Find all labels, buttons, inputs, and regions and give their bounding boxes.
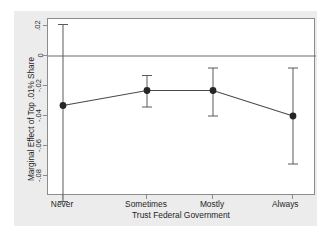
data-point-mostly: [210, 87, 217, 94]
error-bar-never: [58, 25, 68, 202]
x-tick-label-always: Always: [272, 199, 317, 209]
series-line: [63, 91, 293, 117]
x-tick-label-sometimes: Sometimes: [116, 199, 176, 209]
y-tick-label-2: -.02: [34, 73, 43, 99]
chart-svg: [48, 19, 316, 196]
x-axis-title: Trust Federal Government: [47, 210, 315, 220]
plot-frame: [47, 18, 315, 195]
chart-screenshot: Marginal Effect of Top .01% Share .02 0 …: [0, 0, 317, 237]
y-tick-label-0: .02: [33, 15, 42, 37]
data-point-always: [290, 113, 297, 120]
y-tick-label-3: -.04: [34, 103, 43, 129]
y-tick-label-5: -.08: [34, 163, 43, 189]
data-point-never: [60, 102, 67, 109]
figure-canvas: Marginal Effect of Top .01% Share .02 0 …: [14, 11, 317, 226]
x-tick-label-mostly: Mostly: [187, 199, 237, 209]
plot-area: [48, 19, 314, 194]
y-tick-label-4: -.06: [34, 133, 43, 159]
figure-inner: Marginal Effect of Top .01% Share .02 0 …: [14, 11, 317, 226]
x-tick-label-never: Never: [37, 199, 87, 209]
data-point-sometimes: [144, 87, 151, 94]
